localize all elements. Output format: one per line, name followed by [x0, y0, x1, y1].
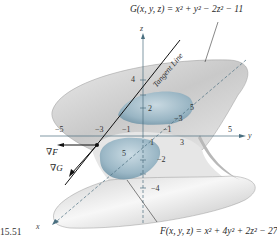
extra-tick-neg3: −3 — [174, 114, 183, 123]
figure-number: 15.51 — [0, 227, 21, 237]
z-tick-2: 2 — [148, 104, 152, 113]
extra-tick-neg1: −1 — [163, 125, 172, 134]
y-tick-neg3: −3 — [95, 125, 104, 134]
z-tick-neg4: −4 — [151, 184, 160, 193]
x-axis-label: x — [36, 222, 40, 231]
y-tick-3: 3 — [180, 138, 184, 147]
y-tick-1: 1 — [150, 138, 154, 147]
grad-G-vector — [72, 145, 97, 173]
y-axis-label: y — [248, 131, 252, 140]
z-tick-neg2: −2 — [157, 155, 166, 164]
y-tick-5: 5 — [228, 125, 232, 134]
grad-G-label: ∇G — [50, 163, 63, 173]
x-tick-5: 5 — [122, 149, 126, 158]
leader-G — [205, 22, 218, 62]
extra-tick-5: 5 — [190, 103, 194, 112]
z-tick-4: 4 — [131, 75, 135, 84]
z-axis-label: z — [140, 24, 143, 33]
grad-F-label: ∇F — [46, 147, 58, 157]
tangent-point — [95, 143, 99, 147]
diagram-canvas — [0, 0, 277, 241]
y-tick-neg1: −1 — [122, 125, 131, 134]
equation-F: F(x, y, z) = x² + 4y² + 2z² − 27 — [160, 226, 277, 236]
equation-G: G(x, y, z) = x² + y² − 2z² − 11 — [130, 4, 243, 14]
y-tick-neg5: −5 — [55, 125, 64, 134]
